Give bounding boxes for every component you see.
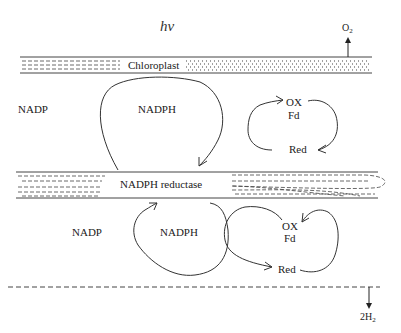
membrane-dot-pattern (186, 61, 370, 70)
lower-nadph-label: NADPH (160, 227, 198, 238)
upper-fd-cycle-arrow-right (308, 100, 337, 150)
lower-fd-ox-label: OX (282, 221, 298, 232)
diagram-canvas: hν O2 Chloroplast NADP NADPH OX Fd Red N… (0, 0, 401, 333)
lower-nadph-loop-arrow (134, 203, 228, 275)
lower-fd-red-label: Red (278, 264, 296, 275)
upper-fd-label: Fd (288, 110, 300, 121)
upper-nadp-label: NADP (18, 104, 48, 115)
hydrogen-label-base: 2H (360, 311, 372, 322)
oxygen-label-subscript: 2 (349, 27, 353, 35)
upper-fd-red-label: Red (289, 144, 307, 155)
upper-fd-ox-label: OX (286, 97, 302, 108)
reductase-lens-pattern (232, 175, 385, 196)
lower-fd-label: Fd (284, 233, 296, 244)
light-energy-label: hν (160, 19, 174, 34)
nadph-reductase-label: NADPH reductase (118, 179, 204, 190)
hydrogen-label-subscript: 2 (372, 316, 376, 324)
chloroplast-label: Chloroplast (125, 60, 182, 71)
lower-fd-cycle-arrow-left (224, 207, 282, 267)
membrane-dash-pattern (22, 61, 120, 69)
upper-nadph-loop-arrow (100, 77, 222, 170)
hydrogen-label: 2H2 (360, 312, 376, 324)
lower-nadp-label: NADP (72, 227, 102, 238)
diagram-graphics (0, 0, 401, 333)
upper-fd-cycle-arrow-left (248, 100, 283, 150)
chloroplast-membrane (20, 57, 372, 73)
oxygen-label: O2 (342, 23, 353, 35)
upper-nadph-label: NADPH (138, 104, 176, 115)
